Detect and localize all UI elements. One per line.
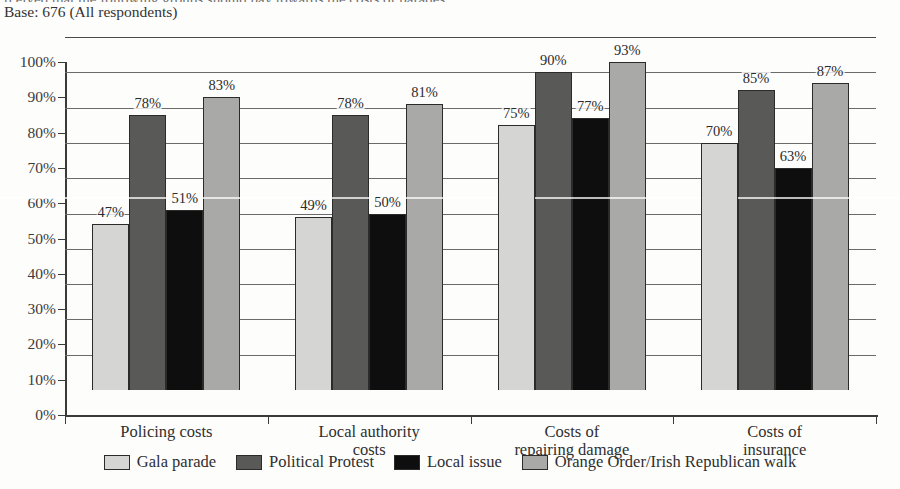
bar	[775, 168, 812, 390]
bar	[92, 224, 129, 390]
bar-value-label: 78%	[134, 96, 163, 111]
bar-value-label: 49%	[299, 198, 328, 213]
legend-label: Gala parade	[137, 452, 216, 472]
y-axis-tick	[58, 62, 67, 63]
y-axis-tick	[58, 133, 67, 134]
y-axis-tick	[58, 380, 67, 381]
bar-value-label: 85%	[742, 71, 771, 86]
bar	[129, 115, 166, 390]
plot-canvas: 47%78%51%83%49%78%50%81%75%90%77%93%70%8…	[65, 37, 876, 390]
bar	[203, 97, 240, 390]
x-axis-category-label: Policing costs	[61, 423, 271, 441]
bar	[701, 143, 738, 390]
bar	[572, 118, 609, 390]
y-axis-tick-label: 30%	[4, 300, 56, 318]
legend-item[interactable]: Gala parade	[104, 452, 216, 472]
legend-item[interactable]: Orange Order/Irish Republican walk	[522, 452, 796, 472]
legend-swatch	[394, 455, 420, 470]
legend-label: Political Protest	[269, 452, 374, 472]
bar	[295, 217, 332, 390]
bar-value-label: 50%	[373, 195, 402, 210]
bar	[609, 62, 646, 390]
y-axis-tick	[58, 203, 67, 204]
legend-swatch	[236, 455, 262, 470]
y-axis-tick-label: 90%	[4, 88, 56, 106]
gridline	[65, 37, 876, 38]
y-axis-tick	[58, 309, 67, 310]
bar	[535, 72, 572, 390]
y-axis-tick-label: 100%	[4, 53, 56, 71]
bar	[738, 90, 775, 390]
base-note: Base: 676 (All respondents)	[4, 3, 177, 21]
y-axis-tick-label: 70%	[4, 159, 56, 177]
y-axis-tick	[58, 344, 67, 345]
bar-value-label: 87%	[816, 64, 845, 79]
bar	[406, 104, 443, 390]
y-axis-tick-label: 60%	[4, 194, 56, 212]
bar	[498, 125, 535, 390]
bar-value-label: 78%	[336, 96, 365, 111]
y-axis-tick-label: 20%	[4, 335, 56, 353]
bar-value-label: 63%	[779, 149, 808, 164]
y-axis-tick	[58, 415, 67, 416]
bar	[166, 210, 203, 390]
y-axis-tick-label: 50%	[4, 230, 56, 248]
y-axis-labels: 0%10%20%30%40%50%60%70%80%90%100%	[0, 62, 56, 416]
bar-value-label: 83%	[208, 78, 237, 93]
y-axis-tick-label: 10%	[4, 371, 56, 389]
legend-label: Orange Order/Irish Republican walk	[555, 452, 796, 472]
chart-legend: Gala paradePolitical ProtestLocal issueO…	[0, 452, 900, 472]
bar-value-label: 70%	[705, 124, 734, 139]
bar	[812, 83, 849, 390]
bar-value-label: 47%	[97, 205, 126, 220]
x-axis-line	[65, 415, 878, 417]
bar-value-label: 51%	[171, 191, 200, 206]
bar-value-label: 77%	[576, 99, 605, 114]
legend-swatch	[104, 455, 130, 470]
y-axis-tick-label: 80%	[4, 124, 56, 142]
y-axis-tick	[58, 239, 67, 240]
category-label-line: Policing costs	[61, 423, 271, 441]
bar-value-label: 81%	[410, 85, 439, 100]
bar	[369, 214, 406, 391]
category-label-line: Local authority	[264, 423, 474, 441]
bar-value-label: 93%	[613, 43, 642, 58]
category-label-line: Costs of	[467, 423, 677, 441]
category-label-line: Costs of	[670, 423, 880, 441]
y-axis-tick-label: 40%	[4, 265, 56, 283]
legend-item[interactable]: Political Protest	[236, 452, 374, 472]
bar-value-label: 75%	[502, 106, 531, 121]
chart-area: 0%10%20%30%40%50%60%70%80%90%100% 47%78%…	[0, 25, 900, 445]
cut-off-title: rceived that the following groups should…	[4, 0, 874, 2]
legend-swatch	[522, 455, 548, 470]
legend-item[interactable]: Local issue	[394, 452, 502, 472]
bar	[332, 115, 369, 390]
y-axis-tick	[58, 97, 67, 98]
legend-label: Local issue	[427, 452, 502, 472]
y-axis-tick	[58, 168, 67, 169]
bar-value-label: 90%	[539, 53, 568, 68]
y-axis-tick	[58, 274, 67, 275]
y-axis-tick-label: 0%	[4, 406, 56, 424]
